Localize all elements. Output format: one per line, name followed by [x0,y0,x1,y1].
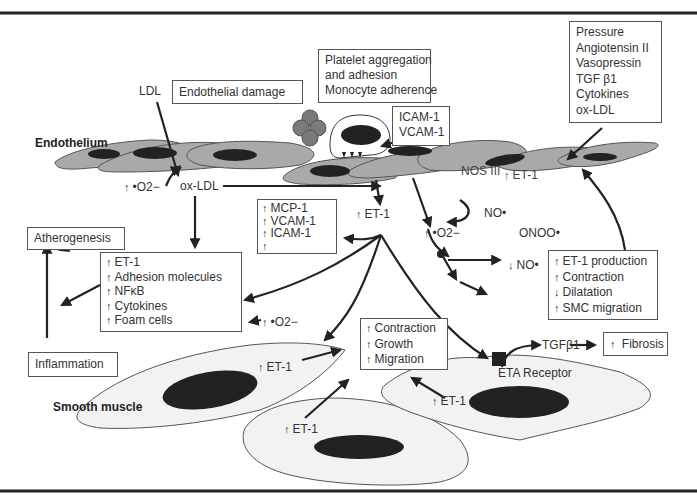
stimuli-box: Pressure Angiotensin II Vasopressin TGF … [569,21,662,123]
adhesion-molecules-box: MCP-1 VCAM-1 ICAM-1 [257,199,337,254]
smc-growth-item: Growth [366,337,442,353]
smc-migration-item: Migration [366,352,442,368]
smc-et1-label-c: ET-1 [432,394,466,409]
icam1-item: ICAM-1 [262,227,332,240]
nos-iii-label: NOS III [461,164,500,179]
icam-text: ICAM-1 [399,110,443,125]
stimulus-tgf: TGF β1 [576,72,655,88]
et1-center-label: ET-1 [356,207,390,222]
no-decreased-label: NO• [508,258,539,273]
eta-receptor-label: ETA Receptor [498,366,572,381]
eta-receptor-icon [492,352,506,366]
platelet-box-line-2: and adhesion [325,68,424,83]
icam-vcam-box: ICAM-1 VCAM-1 [392,106,450,146]
stimulus-angiotensin: Angiotensin II [576,41,655,57]
et1-effects-box: ET-1 production Contraction Dilatation S… [548,250,658,320]
endothelial-damage-box: Endothelial damage [172,80,303,104]
stimulus-cytokines: Cytokines [576,87,655,103]
effect-cytokines: Cytokines [106,299,236,314]
effect-foam-cells: Foam cells [106,313,236,328]
smc-et1-label-a: ET-1 [258,360,292,375]
endothelium-label: Endothelium [35,136,108,151]
smc-migration-item: SMC migration [554,301,652,317]
vcam-text: VCAM-1 [399,125,443,140]
effect-et1: ET-1 [106,255,236,270]
et1-endothelium-label: ET-1 [504,168,538,183]
contraction-item: Contraction [554,270,652,286]
smooth-muscle-label: Smooth muscle [53,400,142,415]
platelet-cluster-icon [293,110,326,146]
ox-ldl-label: ox-LDL [180,179,219,194]
stimulus-ox-ldl: ox-LDL [576,103,655,119]
fibrosis-text: Fibrosis [622,337,664,351]
superoxide-mid-label: •O2− [424,226,460,241]
platelet-box-line-1: Platelet aggregation [325,53,424,68]
tgf-beta-label: TGFβ1 [542,338,580,353]
effect-adhesion-molecules: Adhesion molecules [106,270,236,285]
superoxide-left-label: •O2− [124,180,160,195]
platelet-aggregation-box: Platelet aggregation and adhesion Monocy… [318,49,431,103]
peroxynitrite-label: ONOO• [519,226,560,241]
monocyte-nucleus [341,125,381,145]
effect-nfkb: NFκB [106,284,236,299]
diagram-canvas: Endothelium Smooth muscle LDL Endothelia… [0,0,697,504]
atherogenesis-text: Atherogenesis [34,231,111,245]
inflammation-box: Inflammation [28,352,118,377]
smc-et1-label-b: ET-1 [284,422,318,437]
stimulus-pressure: Pressure [576,25,655,41]
dilatation-item: Dilatation [554,285,652,301]
reaction-node-icon [437,250,445,258]
smc-contraction-item: Contraction [366,321,442,337]
oxldl-effects-box: ET-1 Adhesion molecules NFκB Cytokines F… [100,252,242,332]
atherogenesis-box: Atherogenesis [27,227,125,250]
mcp1-item: MCP-1 [262,202,332,215]
stimulus-vasopressin: Vasopressin [576,56,655,72]
smc-response-box: Contraction Growth Migration [360,318,448,370]
platelet-box-line-3: Monocyte adherence [325,83,424,98]
superoxide-lower-label: •O2− [262,315,298,330]
blank-item [262,240,332,253]
ldl-label: LDL [139,84,161,99]
fibrosis-box: Fibrosis [603,332,668,356]
endothelial-damage-text: Endothelial damage [179,85,285,99]
no-radical-label: NO• [484,206,506,221]
et1-production-item: ET-1 production [554,254,652,270]
inflammation-text: Inflammation [35,357,104,371]
